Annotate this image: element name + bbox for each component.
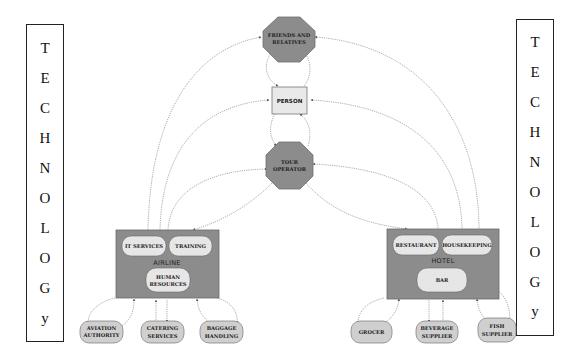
node-grocer[interactable]: GROCER	[351, 321, 392, 343]
edge-operator-to-hotel	[306, 183, 407, 229]
edge-airline-to-person	[160, 100, 269, 230]
unit-label: TRAINING	[175, 243, 207, 249]
unit-label: IT SERVICES	[125, 243, 163, 249]
supplier-label: AVIATION	[86, 325, 117, 331]
edge-hotel-to-friends	[315, 37, 479, 228]
edge-hotel-to-person	[311, 100, 462, 228]
node-label: OPERATOR	[273, 166, 307, 172]
unit-label: BAR	[436, 277, 449, 283]
node-beverage-supplier[interactable]: BEVERAGE SUPPLIER	[416, 321, 458, 343]
group-hotel[interactable]: RESTAURANT HOUSEKEEPING HOTEL BAR	[387, 229, 499, 299]
node-label: TOUR	[281, 159, 299, 165]
supplier-label: HANDLING	[205, 333, 239, 339]
edge-hotel-to-grocer	[358, 298, 384, 323]
group-label: AIRLINE	[153, 259, 181, 267]
group-label: HOTEL	[431, 257, 454, 265]
edge-operator-to-person	[300, 114, 310, 146]
node-catering-services[interactable]: CATERING SERVICES	[141, 321, 184, 343]
supplier-label: CATERING	[147, 325, 179, 331]
node-fish-supplier[interactable]: FISH SUPPLIER	[478, 318, 516, 342]
supplier-label: AUTHORITY	[82, 332, 119, 338]
supplier-label: SUPPLIER	[422, 333, 453, 339]
unit-human-resources[interactable]	[146, 268, 190, 292]
group-airline[interactable]: IT SERVICES TRAINING AIRLINE HUMAN RESOU…	[116, 230, 219, 298]
unit-label: HUMAN	[156, 274, 180, 280]
edge-operator-to-airline	[193, 183, 272, 230]
node-friends-and-relatives[interactable]: FRIENDS AND RELATIVES	[263, 17, 315, 62]
supplier-label: FISH	[490, 323, 505, 329]
node-aviation-authority[interactable]: AVIATION AUTHORITY	[80, 321, 123, 343]
supplier-label: GROCER	[359, 329, 385, 335]
edge-airline-to-baggage	[217, 298, 237, 323]
edge-airline-to-friends	[148, 37, 261, 230]
edge-airline-to-aviation	[88, 298, 115, 323]
supplier-label: BAGGAGE	[207, 325, 237, 331]
node-person[interactable]: PERSON	[272, 87, 307, 114]
network-diagram: FRIENDS AND RELATIVES PERSON TOUR OPERAT…	[0, 0, 578, 359]
node-baggage-handling[interactable]: BAGGAGE HANDLING	[200, 321, 243, 343]
supplier-label: BEVERAGE	[420, 325, 453, 331]
node-label: PERSON	[277, 98, 303, 104]
node-label: RELATIVES	[272, 39, 306, 45]
unit-label: RESOURCES	[149, 281, 186, 287]
unit-label: RESTAURANT	[395, 242, 436, 248]
supplier-label: SUPPLIER	[482, 331, 513, 337]
supplier-pill	[478, 318, 516, 342]
node-label: FRIENDS AND	[268, 32, 311, 38]
node-tour-operator[interactable]: TOUR OPERATOR	[266, 142, 313, 189]
unit-label: HOUSEKEEPING	[442, 242, 492, 248]
edge-hotel-to-operator	[313, 164, 438, 228]
supplier-label: SERVICES	[147, 333, 177, 339]
edge-person-to-operator	[271, 114, 276, 146]
edge-aviation-to-airline	[120, 299, 134, 327]
